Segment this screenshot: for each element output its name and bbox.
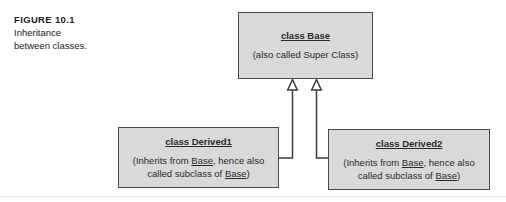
generalization-arrowhead-derived2 [312, 80, 322, 91]
derived2-note-base-link-2: Base [435, 170, 457, 181]
figure-number-label: FIGURE 10.1 [14, 13, 126, 26]
generalization-arrowhead-derived1 [288, 80, 298, 91]
class-box-derived2-title: class Derived2 [376, 138, 443, 150]
class-box-base: class Base (also called Super Class) [238, 12, 373, 79]
class-box-base-title: class Base [281, 30, 330, 42]
class-box-derived1-title: class Derived1 [165, 136, 232, 148]
class-box-derived2-note: (Inherits from Base, hence also called s… [329, 156, 489, 182]
derived1-note-base-link-2: Base [225, 168, 247, 179]
inheritance-arrow-derived1-to-base [279, 80, 297, 159]
figure-caption-line-1: Inheritance [14, 26, 126, 39]
derived2-note-prefix: (Inherits from [343, 157, 402, 168]
figure-divider-rule [0, 196, 506, 197]
derived1-note-prefix: (Inherits from [133, 155, 192, 166]
derived1-note-suffix: ) [247, 168, 250, 179]
derived2-note-suffix: ) [457, 170, 460, 181]
figure-caption: FIGURE 10.1 Inheritance between classes. [14, 13, 126, 52]
class-box-derived2: class Derived2 (Inherits from Base, henc… [328, 129, 490, 190]
class-box-base-note: (also called Super Class) [247, 48, 365, 61]
class-box-derived1: class Derived1 (Inherits from Base, henc… [118, 127, 279, 188]
figure-caption-line-2: between classes. [14, 39, 126, 52]
inheritance-arrow-derived2-to-base [312, 80, 328, 159]
class-box-derived1-note: (Inherits from Base, hence also called s… [119, 154, 278, 180]
derived1-note-base-link-1: Base [191, 155, 213, 166]
figure-inheritance-between-classes: FIGURE 10.1 Inheritance between classes.… [0, 0, 506, 202]
derived2-note-base-link-1: Base [402, 157, 424, 168]
